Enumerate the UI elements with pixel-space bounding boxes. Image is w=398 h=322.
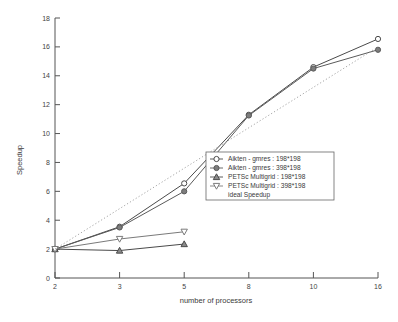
chart-canvas: 024681012141618 23581016 Speedup number …	[0, 0, 398, 322]
y-axis-ticks: 024681012141618	[42, 15, 60, 282]
series-4	[55, 47, 378, 249]
legend-label-3: PETSc Multigrid : 398*198	[228, 182, 306, 190]
y-tick-label: 18	[42, 15, 50, 22]
data-point-circle-filled	[311, 66, 316, 71]
x-tick-label: 5	[182, 283, 186, 290]
data-series-group	[52, 36, 381, 253]
data-point-circle-open	[182, 181, 187, 186]
legend-label-4: ideal Speedup	[228, 191, 270, 199]
chart-legend: Aikten - gmres : 198*198Aikten - gmres :…	[206, 152, 334, 200]
y-tick-label: 12	[42, 101, 50, 108]
legend-label-2: PETSc Multigrid : 198*198	[228, 173, 306, 181]
y-tick-label: 10	[42, 130, 50, 137]
data-point-circle-filled	[182, 189, 187, 194]
x-tick-label: 16	[374, 283, 382, 290]
x-tick-label: 3	[118, 283, 122, 290]
y-tick-label: 6	[46, 188, 50, 195]
data-point-triangle-up	[181, 241, 187, 247]
legend-label-0: Aikten - gmres : 198*198	[228, 155, 301, 163]
data-point-circle-filled	[375, 47, 380, 52]
x-tick-label: 2	[53, 283, 57, 290]
speedup-chart-figure: 024681012141618 23581016 Speedup number …	[0, 0, 398, 322]
data-point-circle-open	[214, 156, 219, 161]
x-tick-label: 8	[247, 283, 251, 290]
ideal-speedup-line	[55, 47, 378, 249]
y-tick-label: 0	[46, 275, 50, 282]
data-point-circle-filled	[246, 113, 251, 118]
legend-label-1: Aikten - gmres : 398*198	[228, 164, 301, 172]
legend-entry-4[interactable]: ideal Speedup	[228, 191, 270, 199]
data-point-circle-filled	[214, 165, 219, 170]
x-axis-ticks: 23581016	[53, 272, 382, 290]
x-tick-label: 10	[310, 283, 318, 290]
y-tick-label: 4	[46, 217, 50, 224]
y-axis-title: Speedup	[15, 145, 24, 175]
data-point-circle-filled	[117, 225, 122, 230]
data-point-circle-open	[375, 36, 380, 41]
y-tick-label: 2	[46, 246, 50, 253]
y-tick-label: 14	[42, 72, 50, 79]
series-line-0	[55, 39, 378, 249]
y-tick-label: 16	[42, 43, 50, 50]
x-axis-title: number of processors	[180, 296, 253, 305]
y-tick-label: 8	[46, 159, 50, 166]
